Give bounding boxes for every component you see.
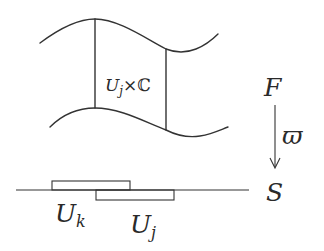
fiber-bundle-diagram: Uj×ℂ F ϖ S Uk Uj — [0, 0, 324, 251]
open-set-uj-base: U — [130, 210, 152, 239]
open-set-uj-rect — [96, 190, 174, 200]
total-space-label: F — [263, 73, 283, 102]
base-space-label: S — [266, 178, 283, 207]
open-set-uj-label: Uj — [130, 210, 156, 242]
patch-label-base: U — [105, 75, 120, 95]
projection-label: ϖ — [282, 121, 303, 150]
patch-label: Uj×ℂ — [105, 75, 151, 98]
open-set-uk-rect — [52, 181, 130, 190]
open-set-uk-subscript: k — [76, 212, 86, 231]
open-set-uk-label: Uk — [55, 199, 86, 231]
top-boundary-curve — [40, 19, 218, 52]
bottom-boundary-curve — [50, 108, 228, 137]
patch-label-fiber: ℂ — [137, 75, 151, 95]
patch-label-times: × — [123, 75, 137, 95]
open-set-uk-base: U — [55, 199, 77, 228]
